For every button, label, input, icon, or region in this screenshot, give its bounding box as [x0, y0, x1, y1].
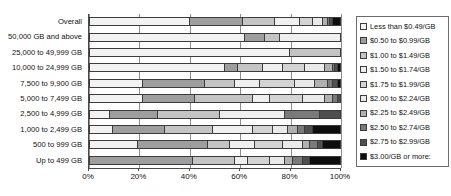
- bar-segment: [310, 157, 340, 164]
- category-label: 5,000 to 7,499 GB: [0, 91, 86, 106]
- bar-segment: [253, 95, 271, 102]
- bar-row: [89, 122, 341, 137]
- legend-item[interactable]: $2.00 to $2.24/GB: [360, 92, 446, 105]
- chart-legend: Less than $0.49/GB$0.50 to $0.99/GB$1.00…: [356, 16, 449, 167]
- bar-segment: [305, 126, 313, 133]
- category-label: 2,500 to 4,999 GB: [0, 106, 86, 121]
- stacked-bar: [89, 94, 341, 103]
- legend-label: $2.75 to $2.99/GB: [370, 138, 430, 145]
- x-axis-ticks: [88, 168, 340, 172]
- bar-segment: [283, 64, 306, 71]
- bar-segment: [315, 80, 328, 87]
- bar-segment: [275, 18, 300, 25]
- bar-segment: [300, 18, 313, 25]
- category-label: 10,000 to 24,999 GB: [0, 60, 86, 75]
- bar-row: [89, 106, 341, 121]
- stacked-bar: [89, 17, 341, 26]
- x-axis-tick: [138, 168, 139, 171]
- category-label: 25,000 to 49,999 GB: [0, 45, 86, 60]
- bar-segment: [213, 126, 253, 133]
- bar-segment: [325, 64, 333, 71]
- bar-segment: [90, 141, 138, 148]
- bar-segment: [295, 80, 315, 87]
- bar-segment: [90, 95, 143, 102]
- stacked-bar: [89, 125, 341, 134]
- bar-segment: [313, 126, 341, 133]
- legend-item[interactable]: $1.75 to $1.99/GB: [360, 78, 446, 91]
- legend-item[interactable]: Less than $0.49/GB: [360, 20, 446, 33]
- x-axis-tick-label: 40%: [181, 173, 197, 181]
- legend-item[interactable]: $1.00 to $1.49/GB: [360, 49, 446, 62]
- category-label: 50,000 GB and above: [0, 29, 86, 44]
- bar-segment: [338, 95, 341, 102]
- category-label: Up to 499 GB: [0, 153, 86, 168]
- legend-item[interactable]: $0.50 to $0.99/GB: [360, 34, 446, 47]
- bar-segment: [303, 157, 311, 164]
- bar-segment: [313, 18, 323, 25]
- legend-swatch-icon: [360, 139, 367, 146]
- bar-segment: [270, 95, 303, 102]
- stacked-bar: [89, 110, 341, 119]
- bar-row: [89, 29, 341, 44]
- legend-swatch-icon: [360, 81, 367, 88]
- bar-segment: [263, 64, 283, 71]
- legend-swatch-icon: [360, 110, 367, 117]
- legend-swatch-icon: [360, 66, 367, 73]
- bar-segment: [320, 111, 340, 118]
- bar-segment: [90, 111, 110, 118]
- bar-segment: [285, 111, 320, 118]
- bar-segment: [290, 49, 340, 56]
- bar-segment: [298, 126, 306, 133]
- y-axis-category-labels: Overall50,000 GB and above25,000 to 49,9…: [0, 14, 86, 168]
- bar-segment: [273, 126, 288, 133]
- legend-item[interactable]: $2.25 to $2.49/GB: [360, 107, 446, 120]
- category-label: 1,000 to 2,499 GB: [0, 122, 86, 137]
- legend-item[interactable]: $2.75 to $2.99/GB: [360, 136, 446, 149]
- legend-label: $1.50 to $1.74/GB: [370, 66, 430, 73]
- bar-segment: [193, 157, 236, 164]
- x-axis-tick-label: 60%: [231, 173, 247, 181]
- bar-segment: [208, 141, 231, 148]
- stacked-bar: [89, 33, 341, 42]
- bar-segment: [195, 95, 253, 102]
- legend-item[interactable]: $3.00/GB or more:: [360, 150, 446, 163]
- stacked-bar: [89, 156, 341, 165]
- gridline: [341, 14, 342, 168]
- bar-segment: [238, 64, 263, 71]
- bar-segment: [90, 80, 143, 87]
- x-axis-tick-label: 80%: [282, 173, 298, 181]
- legend-item[interactable]: $2.50 to $2.74/GB: [360, 121, 446, 134]
- legend-label: $2.50 to $2.74/GB: [370, 124, 430, 131]
- bar-segment: [265, 34, 280, 41]
- legend-item[interactable]: $1.50 to $1.74/GB: [360, 63, 446, 76]
- legend-swatch-icon: [360, 23, 367, 30]
- stacked-bar: [89, 63, 341, 72]
- bar-segment: [143, 80, 206, 87]
- bar-segment: [138, 141, 208, 148]
- x-axis-tick: [88, 168, 89, 171]
- bar-segment: [288, 126, 298, 133]
- category-label: Overall: [0, 14, 86, 29]
- bar-segment: [248, 157, 271, 164]
- legend-label: $1.00 to $1.49/GB: [370, 52, 430, 59]
- bar-segment: [253, 126, 273, 133]
- bar-segment: [255, 141, 283, 148]
- plot-area: [88, 14, 341, 168]
- legend-label: $0.50 to $0.99/GB: [370, 37, 430, 44]
- legend-swatch-icon: [360, 37, 367, 44]
- bar-segment: [90, 34, 245, 41]
- legend-swatch-icon: [360, 153, 367, 160]
- bar-segment: [90, 49, 290, 56]
- bar-row: [89, 91, 341, 106]
- x-axis-tick-label: 20%: [130, 173, 146, 181]
- legend-swatch-icon: [360, 95, 367, 102]
- bar-segment: [305, 64, 325, 71]
- bar-segment: [333, 18, 341, 25]
- bar-segment: [325, 95, 333, 102]
- bar-segment: [243, 18, 276, 25]
- x-axis-tick-label: 0%: [82, 173, 94, 181]
- legend-swatch-icon: [360, 124, 367, 131]
- bar-segment: [90, 126, 113, 133]
- bar-row: [89, 45, 341, 60]
- bar-row: [89, 76, 341, 91]
